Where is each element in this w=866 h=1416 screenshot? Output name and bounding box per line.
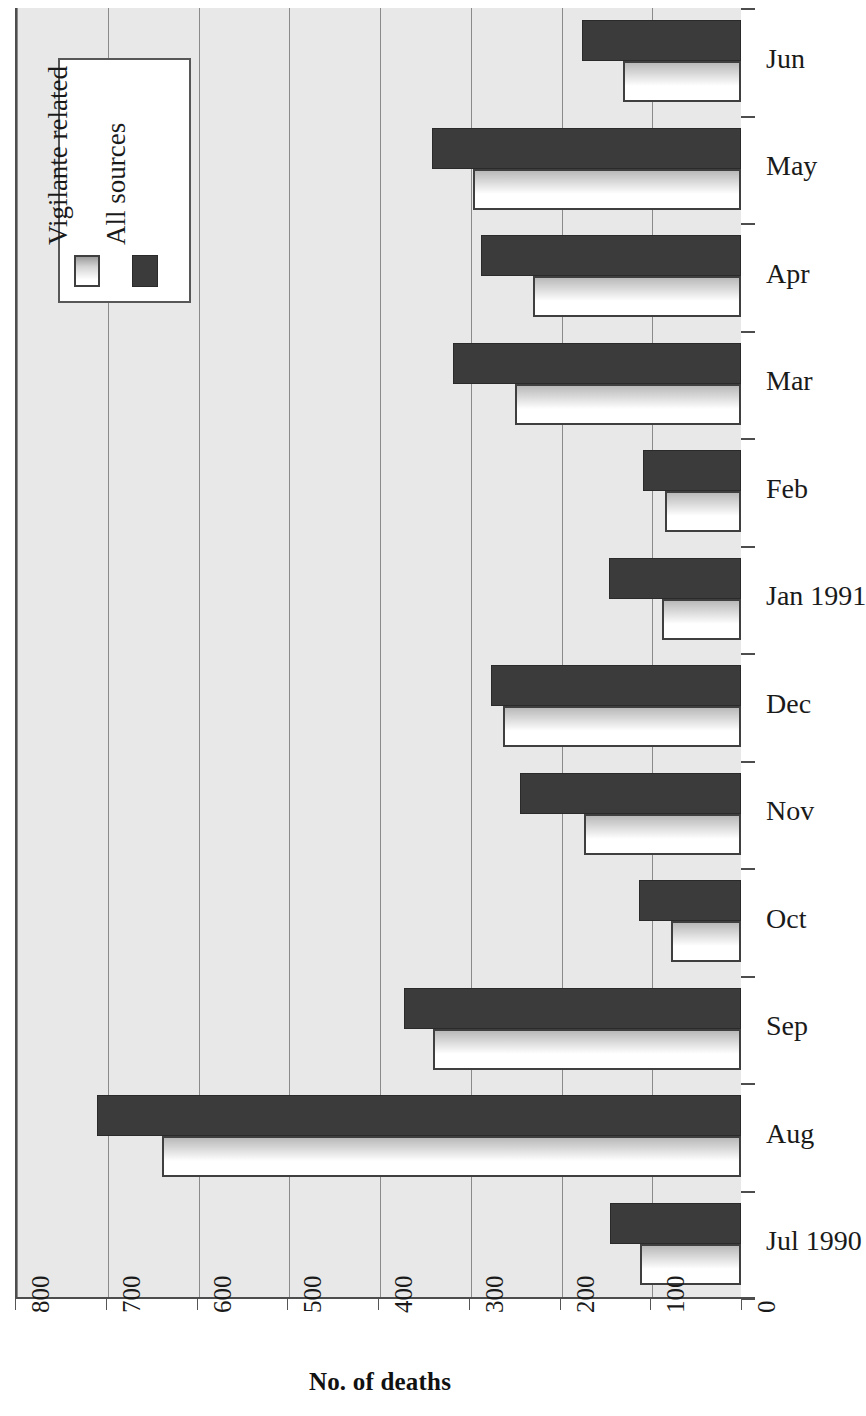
bar-vigilante-related [533, 276, 741, 317]
x-axis-tick [197, 1299, 198, 1310]
x-axis-tick [15, 1299, 16, 1310]
category-label: Jun [766, 43, 805, 75]
category-axis-tick [741, 1083, 755, 1085]
category-axis-tick [741, 868, 755, 870]
bar-all-sources [97, 1095, 741, 1136]
category-label: Sep [766, 1010, 808, 1042]
category-label: Aug [766, 1118, 814, 1150]
legend: Vigilante related All sources [58, 58, 191, 303]
bar-all-sources [491, 665, 741, 706]
bar-all-sources [639, 880, 741, 921]
x-axis-tick-label: 800 [27, 1243, 55, 1313]
bar-vigilante-related [623, 61, 741, 102]
bar-all-sources [643, 450, 741, 491]
legend-label-vigilante: Vigilante related [43, 66, 74, 247]
x-axis-tick [560, 1299, 561, 1310]
x-axis-tick [287, 1299, 288, 1310]
bar-all-sources [610, 1203, 741, 1244]
category-label: Mar [766, 365, 813, 397]
x-axis-tick-label: 0 [753, 1243, 781, 1313]
x-axis-tick [650, 1299, 651, 1310]
bar-all-sources [404, 988, 741, 1029]
bar-all-sources [609, 558, 741, 599]
category-label: May [766, 150, 817, 182]
bar-all-sources [453, 343, 741, 384]
category-axis-tick [741, 546, 755, 548]
x-axis-tick-label: 100 [662, 1243, 690, 1313]
category-axis-tick [741, 761, 755, 763]
x-axis-tick [469, 1299, 470, 1310]
x-axis-tick [378, 1299, 379, 1310]
legend-label-all-sources: All sources [101, 123, 132, 247]
category-label: Nov [766, 795, 814, 827]
category-label: Feb [766, 473, 808, 505]
x-axis-tick-label: 500 [299, 1243, 327, 1313]
bar-vigilante-related [662, 599, 741, 640]
x-axis-tick-label: 700 [118, 1243, 146, 1313]
x-axis-tick-label: 400 [390, 1243, 418, 1313]
bar-all-sources [432, 128, 741, 169]
category-axis-tick [741, 438, 755, 440]
bar-all-sources [481, 235, 741, 276]
bar-vigilante-related [162, 1136, 741, 1177]
x-axis-title: No. of deaths [0, 1368, 760, 1396]
category-label: Oct [766, 903, 806, 935]
x-axis-tick-label: 200 [572, 1243, 600, 1313]
category-axis-tick [741, 8, 755, 10]
x-axis-tick [106, 1299, 107, 1310]
category-label: Apr [766, 258, 810, 290]
bar-vigilante-related [515, 384, 741, 425]
bar-all-sources [582, 20, 741, 61]
bar-vigilante-related [503, 706, 741, 747]
bar-vigilante-related [671, 921, 741, 962]
bar-all-sources [520, 773, 741, 814]
bar-vigilante-related [433, 1029, 741, 1070]
category-label: Dec [766, 688, 811, 720]
legend-swatch-all-sources [132, 255, 158, 287]
category-axis-tick [741, 653, 755, 655]
bar-vigilante-related [665, 491, 741, 532]
category-axis-tick [741, 223, 755, 225]
x-axis-tick-label: 300 [481, 1243, 509, 1313]
bar-vigilante-related [473, 169, 741, 210]
x-axis-tick-label: 600 [209, 1243, 237, 1313]
x-axis-tick [741, 1299, 742, 1310]
category-label: Jan 1991 [766, 580, 866, 612]
category-axis-tick [741, 1191, 755, 1193]
bar-vigilante-related [584, 814, 741, 855]
legend-swatch-vigilante [74, 255, 100, 287]
category-axis-tick [741, 331, 755, 333]
category-axis-tick [741, 976, 755, 978]
bar-vigilante-related [640, 1244, 741, 1285]
gridline [17, 8, 18, 1298]
category-axis-tick [741, 116, 755, 118]
